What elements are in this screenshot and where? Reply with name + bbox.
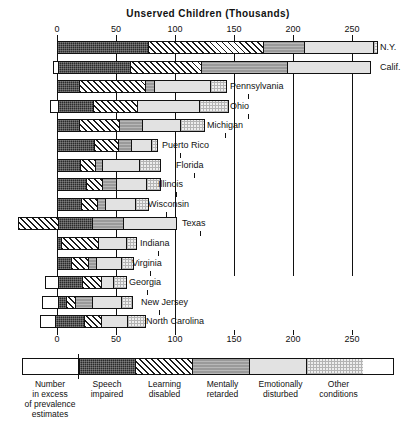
x-axis-bottom-tick-label: 250 bbox=[344, 334, 359, 344]
bar-category-label: Wisconsin bbox=[148, 199, 189, 209]
bar-row: Georgia bbox=[0, 275, 416, 290]
legend-label-emotional: Emotionallydisturbed bbox=[252, 379, 309, 399]
bar-segment-learning bbox=[93, 101, 137, 112]
x-axis-bottom-tick-mark bbox=[293, 330, 294, 335]
bar-segment-learning bbox=[86, 179, 102, 190]
bar-category-label: New Jersey bbox=[141, 297, 188, 307]
bar-category-label: Pennsylvania bbox=[230, 81, 284, 91]
bar-segment-speech bbox=[58, 120, 79, 131]
bar-segment-emotional bbox=[287, 62, 370, 73]
bar-segment-emotional bbox=[105, 199, 135, 210]
bar-segment-other bbox=[139, 160, 160, 171]
bar-row: Ohio bbox=[0, 99, 416, 114]
bar-segment-learning bbox=[148, 42, 263, 53]
stacked-bar[interactable] bbox=[40, 315, 146, 328]
legend-swatch-learning bbox=[135, 359, 192, 374]
bar-row: Indiana bbox=[0, 236, 416, 251]
legend-label-line: impaired bbox=[79, 389, 135, 399]
bar-segment-mental bbox=[119, 120, 142, 131]
x-axis-bottom-tick-mark bbox=[175, 330, 176, 335]
stacked-bar[interactable] bbox=[57, 139, 158, 152]
x-axis-bottom-tick-mark bbox=[234, 330, 235, 335]
bar-segment-emotional bbox=[101, 277, 113, 288]
bar-segment-speech bbox=[58, 258, 71, 269]
bar-category-label: N.Y. bbox=[380, 42, 396, 52]
legend-swatch-mental bbox=[192, 359, 249, 374]
bar-segment-mental bbox=[145, 81, 153, 92]
legend-label-line: retarded bbox=[194, 389, 251, 399]
bar-segment-learning bbox=[130, 62, 202, 73]
bar-segment-other bbox=[135, 199, 148, 210]
bar-segment-learning bbox=[81, 199, 97, 210]
stacked-bar[interactable] bbox=[57, 159, 161, 172]
x-axis-bottom-tick-label: 0 bbox=[54, 334, 59, 344]
bar-category-label: Indiana bbox=[140, 238, 170, 248]
x-axis-top-tick-label: 0 bbox=[54, 24, 59, 34]
bar-segment-mental bbox=[97, 199, 105, 210]
stacked-bar[interactable] bbox=[57, 257, 134, 270]
bar-segment-mental bbox=[88, 258, 96, 269]
legend-label-line: in excess bbox=[22, 389, 78, 399]
bar-category-label: Puerto Rico bbox=[162, 140, 209, 150]
bar-segment-learning bbox=[82, 277, 102, 288]
legend-label-line: disturbed bbox=[252, 389, 309, 399]
bar-segment-other bbox=[151, 140, 158, 151]
legend-label-other: Otherconditions bbox=[310, 379, 367, 399]
bar-segment-learning bbox=[84, 316, 101, 327]
legend-label-line: estimates bbox=[22, 409, 78, 419]
stacked-bar[interactable] bbox=[57, 237, 137, 250]
bar-category-label: North Carolina bbox=[146, 316, 204, 326]
bar-segment-speech bbox=[58, 140, 94, 151]
stacked-bar[interactable] bbox=[57, 80, 227, 93]
stacked-bar[interactable] bbox=[53, 61, 370, 74]
bar-segment-emotional bbox=[102, 160, 139, 171]
bar-category-label: Texas bbox=[182, 218, 206, 228]
bar-segment-other bbox=[126, 238, 136, 249]
x-axis-bottom-tick-label: 200 bbox=[285, 334, 300, 344]
bar-row: Puerto Rico bbox=[0, 138, 416, 153]
bar-segment-other bbox=[199, 101, 228, 112]
bar-row: Illinois bbox=[0, 177, 416, 192]
bar-row: Virginia bbox=[0, 256, 416, 271]
stacked-bar[interactable] bbox=[57, 198, 149, 211]
bar-segment-learning bbox=[71, 258, 88, 269]
bar-segment-speech bbox=[58, 218, 93, 229]
bar-row: Florida bbox=[0, 158, 416, 173]
bar-row: Wisconsin bbox=[0, 197, 416, 212]
bar-segment-mental bbox=[118, 140, 131, 151]
legend-label-line: Other bbox=[310, 379, 367, 389]
stacked-bar[interactable] bbox=[45, 276, 126, 289]
bar-segment-emotional bbox=[154, 81, 210, 92]
stacked-bar[interactable] bbox=[50, 100, 229, 113]
bar-category-label: Michigan bbox=[207, 120, 243, 130]
x-axis-bottom-tick-label: 100 bbox=[167, 334, 182, 344]
bar-segment-excess bbox=[19, 218, 57, 229]
bar-segment-speech bbox=[58, 81, 79, 92]
bar-segment-mental bbox=[102, 179, 116, 190]
stacked-bar[interactable] bbox=[57, 41, 378, 54]
legend-label-line: Learning bbox=[136, 379, 193, 389]
bar-segment-emotional bbox=[137, 101, 199, 112]
bar-row: New Jersey bbox=[0, 295, 416, 310]
chart-legend: Numberin excessof prevalenceestimatesSpe… bbox=[0, 358, 416, 432]
bar-row: North Carolina bbox=[0, 314, 416, 329]
bar-segment-emotional bbox=[92, 297, 121, 308]
legend-label-mental: Mentallyretarded bbox=[194, 379, 251, 399]
stacked-bar[interactable] bbox=[57, 178, 161, 191]
bar-segment-speech bbox=[58, 297, 66, 308]
stacked-bar[interactable] bbox=[57, 119, 205, 132]
legend-label-line: Emotionally bbox=[252, 379, 309, 389]
legend-label-line: conditions bbox=[310, 389, 367, 399]
stacked-bar[interactable] bbox=[42, 296, 133, 309]
bar-segment-learning bbox=[66, 297, 75, 308]
legend-swatch-other bbox=[306, 359, 363, 374]
bar-row: Texas bbox=[0, 216, 416, 231]
bar-segment-emotional bbox=[123, 218, 177, 229]
bar-segment-mental bbox=[95, 160, 102, 171]
bar-row: Calif. bbox=[0, 60, 416, 75]
bar-segment-other bbox=[210, 81, 226, 92]
stacked-bar[interactable] bbox=[18, 217, 177, 230]
bar-segment-mental bbox=[92, 218, 122, 229]
bar-segment-mental bbox=[201, 62, 287, 73]
bar-segment-speech bbox=[58, 277, 82, 288]
